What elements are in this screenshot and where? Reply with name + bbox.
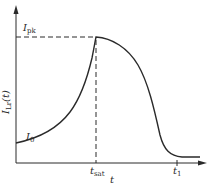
x-axis-arrow-icon — [198, 161, 207, 166]
tsat-label: tsat — [90, 166, 105, 178]
x-axis-label: t — [110, 175, 114, 185]
tsat-label-sub: sat — [94, 170, 105, 178]
y-axis-label-suffix: (t) — [0, 90, 11, 102]
current-curve — [16, 37, 200, 157]
t1-label-sub: 1 — [177, 170, 181, 178]
t1-label: t1 — [173, 166, 182, 178]
y-axis-label: ILr(t) — [1, 84, 13, 120]
ipk-label-sub: pk — [27, 27, 36, 35]
y-axis-label-main: I — [0, 110, 11, 114]
chart: Ipk I0 tsat t1 t ILr(t) — [0, 0, 211, 186]
y-axis-label-sub: Lr — [5, 102, 13, 110]
ipk-label: Ipk — [23, 23, 36, 35]
i0-label: I0 — [26, 132, 34, 144]
i0-label-sub: 0 — [30, 136, 34, 144]
y-axis-arrow-icon — [14, 5, 19, 14]
